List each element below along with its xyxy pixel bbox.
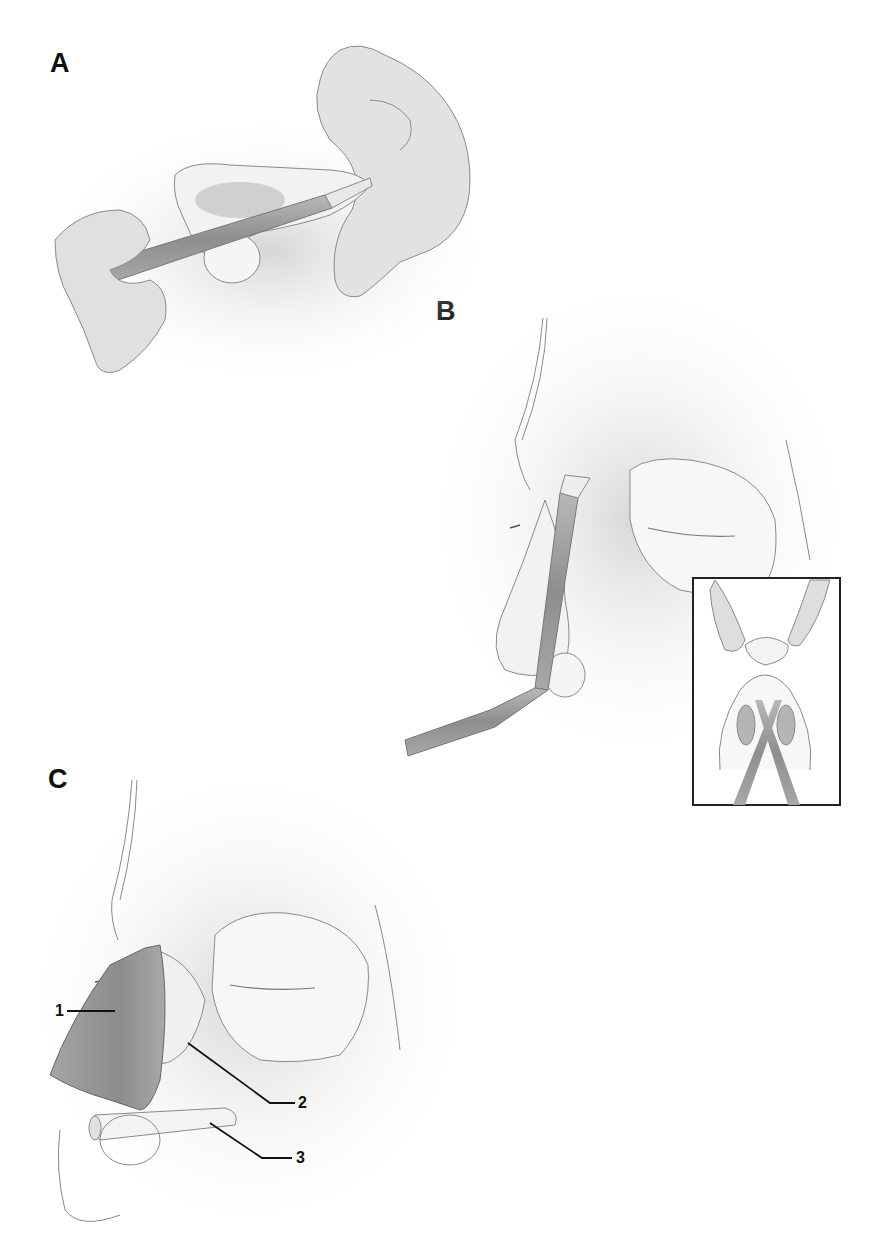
panel-c-illustration: [20, 760, 480, 1240]
panel-b-inset: [693, 578, 840, 805]
callout-label-2: 2: [298, 1094, 307, 1112]
callout-label-3: 3: [296, 1149, 305, 1167]
callout-label-1: 1: [55, 1002, 64, 1020]
panel-a-illustration: [40, 46, 500, 390]
figure-illustration: [0, 0, 883, 1252]
